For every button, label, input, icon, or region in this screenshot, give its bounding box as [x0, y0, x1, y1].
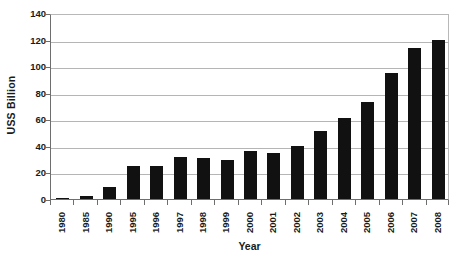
bar — [221, 160, 234, 199]
bar — [103, 187, 116, 199]
x-axis-tick-label-text: 1997 — [174, 212, 185, 233]
x-axis-tick-mark — [167, 200, 168, 205]
x-axis-tick-mark — [355, 200, 356, 205]
bar — [432, 40, 445, 199]
bar — [174, 157, 187, 200]
x-axis-tick-mark — [120, 200, 121, 205]
x-axis-tick-mark — [448, 200, 449, 205]
bar — [80, 196, 93, 199]
x-axis-tick-label-text: 1990 — [103, 212, 114, 233]
y-axis-tick-label: 40 — [20, 142, 46, 152]
x-axis-tick-mark — [261, 200, 262, 205]
bar — [385, 73, 398, 199]
bar — [314, 131, 327, 199]
x-axis-tick-label-text: 2000 — [244, 212, 255, 233]
y-axis-tick-label: 140 — [20, 9, 46, 19]
x-axis-tick-label-text: 1995 — [127, 212, 138, 233]
bar — [150, 166, 163, 199]
x-axis-tick-label-text: 1998 — [197, 212, 208, 233]
x-axis-tick-mark — [285, 200, 286, 205]
x-axis-tick-labels: 1980198519901995199619971998199920002001… — [50, 206, 449, 240]
bar — [361, 102, 374, 199]
x-axis-tick-mark — [214, 200, 215, 205]
x-axis-tick-label-text: 2007 — [408, 212, 419, 233]
x-axis-tick-mark — [144, 200, 145, 205]
bars-layer — [51, 15, 448, 199]
bar — [408, 48, 421, 199]
y-axis-tick-labels: 020406080100120140 — [20, 8, 46, 206]
x-axis-tick-mark — [73, 200, 74, 205]
x-axis-tick-label-text: 2006 — [385, 212, 396, 233]
x-axis-tick-label-text: 2001 — [267, 212, 278, 233]
x-axis-tick-label-text: 2003 — [314, 212, 325, 233]
x-axis-tick-mark — [426, 200, 427, 205]
x-axis-tick-label-text: 2002 — [291, 212, 302, 233]
x-axis-tick-mark — [238, 200, 239, 205]
x-axis-tick-label-text: 1999 — [221, 212, 232, 233]
x-axis-title: Year — [50, 240, 449, 252]
y-axis-tick-label: 60 — [20, 115, 46, 125]
y-axis-title: USS Billion — [0, 0, 22, 210]
x-axis-tick-mark — [191, 200, 192, 205]
x-axis-tick-label-text: 2008 — [432, 212, 443, 233]
x-axis-tick-mark — [50, 200, 51, 205]
x-axis-tick-label-text: 2004 — [338, 212, 349, 233]
x-axis-tick-label-text: 1980 — [56, 212, 67, 233]
x-axis-tick-mark — [332, 200, 333, 205]
y-axis-tick-label: 80 — [20, 89, 46, 99]
bar — [291, 146, 304, 199]
x-axis-tick-mark — [402, 200, 403, 205]
x-axis-tick-mark — [97, 200, 98, 205]
y-axis-tick-label: 100 — [20, 62, 46, 72]
x-axis-tick-label-text: 2005 — [361, 212, 372, 233]
bar — [56, 198, 69, 200]
bar — [244, 151, 257, 199]
x-axis-tick-label: 2008 — [420, 206, 454, 240]
y-axis-title-text: USS Billion — [5, 76, 17, 135]
bar — [127, 166, 140, 199]
x-axis-tick-mark — [308, 200, 309, 205]
bar — [267, 153, 280, 200]
y-axis-tick-label: 20 — [20, 168, 46, 178]
y-axis-tick-label: 0 — [20, 195, 46, 205]
x-axis-tick-label-text: 1996 — [150, 212, 161, 233]
bar — [197, 158, 210, 199]
plot-area — [50, 14, 449, 200]
bar — [338, 118, 351, 199]
y-axis-tick-label: 120 — [20, 36, 46, 46]
x-axis-tick-label-text: 1985 — [80, 212, 91, 233]
bar-chart-figure: USS Billion 020406080100120140 198019851… — [0, 0, 458, 263]
x-axis-tick-mark — [379, 200, 380, 205]
